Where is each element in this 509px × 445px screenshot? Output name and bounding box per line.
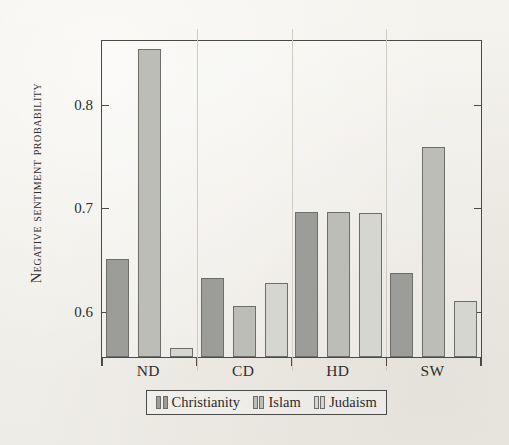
plot-area: 0.60.70.8	[101, 40, 482, 358]
y-axis-tick-right-0.8	[474, 105, 481, 106]
bar-nd-judaism	[170, 348, 193, 357]
bar-nd-christianity	[106, 259, 129, 357]
legend-item-judaism[interactable]: Judaism	[314, 394, 377, 411]
group-separator	[292, 29, 293, 371]
legend-swatch-icon-judaism	[314, 396, 326, 409]
legend-item-islam[interactable]: Islam	[253, 394, 301, 411]
y-axis-tick-right-0.7	[474, 208, 481, 209]
bar-hd-christianity	[295, 212, 318, 357]
group-separator	[386, 29, 387, 371]
chart-legend: ChristianityIslamJudaism	[146, 390, 387, 415]
bar-hd-islam	[327, 212, 350, 357]
bar-cd-christianity	[201, 278, 224, 357]
legend-label: Judaism	[329, 394, 377, 411]
bar-sw-islam	[422, 147, 445, 357]
y-axis-tick-label-0.6: 0.6	[74, 303, 93, 320]
x-axis-label-sw: SW	[421, 362, 445, 380]
y-axis-title: Negative sentiment probability	[28, 83, 45, 284]
bar-sw-judaism	[454, 301, 477, 357]
bar-chart-figure: Negative sentiment probability 0.60.70.8…	[0, 0, 509, 445]
group-separator	[197, 29, 198, 371]
bar-nd-islam	[138, 49, 161, 357]
x-axis-label-cd: CD	[232, 362, 254, 380]
legend-item-christianity[interactable]: Christianity	[156, 394, 240, 411]
y-axis-tick-0.7: 0.7	[102, 208, 109, 209]
x-axis-labels: NDCDHDSW	[101, 362, 482, 386]
legend-swatch-icon-christianity	[156, 396, 168, 409]
legend-swatch-icon-islam	[253, 396, 265, 409]
bar-sw-christianity	[390, 273, 413, 357]
y-axis-tick-label-0.7: 0.7	[74, 200, 93, 217]
y-axis-title-container: Negative sentiment probability	[16, 28, 56, 338]
x-axis-label-nd: ND	[137, 362, 160, 380]
legend-label: Islam	[268, 394, 300, 411]
x-axis-label-hd: HD	[326, 362, 349, 380]
bar-cd-judaism	[265, 283, 288, 357]
y-axis-tick-0.8: 0.8	[102, 105, 109, 106]
bar-cd-islam	[233, 306, 256, 357]
bar-hd-judaism	[359, 213, 382, 357]
legend-label: Christianity	[172, 394, 240, 411]
y-axis-tick-label-0.8: 0.8	[74, 96, 93, 113]
